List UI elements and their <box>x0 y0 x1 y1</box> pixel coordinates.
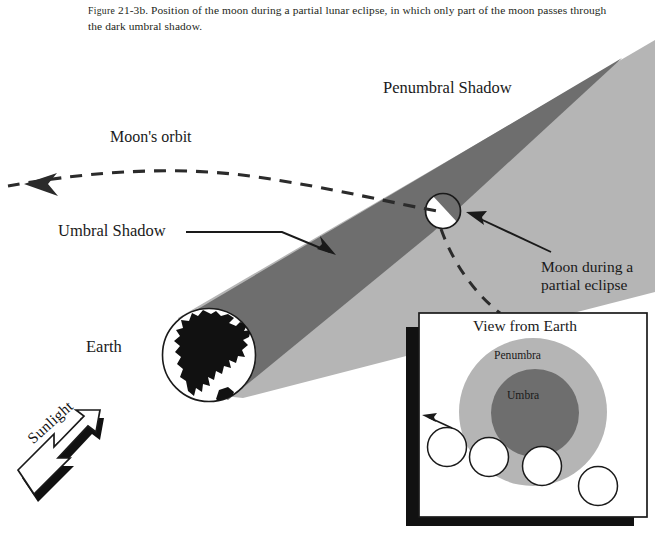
inset-label-umbra: Umbra <box>507 389 539 402</box>
label-earth: Earth <box>86 337 122 357</box>
figure-canvas: Figure 21-3b. Position of the moon durin… <box>0 0 655 536</box>
inset-label-penumbra: Penumbra <box>494 349 541 362</box>
label-penumbral-shadow: Penumbral Shadow <box>383 78 512 98</box>
label-moons-orbit: Moon's orbit <box>110 128 192 146</box>
label-umbral-shadow: Umbral Shadow <box>58 221 166 241</box>
inset-title: View from Earth <box>473 317 577 335</box>
label-moon-during-partial-eclipse: Moon during a partial eclipse <box>541 258 653 294</box>
